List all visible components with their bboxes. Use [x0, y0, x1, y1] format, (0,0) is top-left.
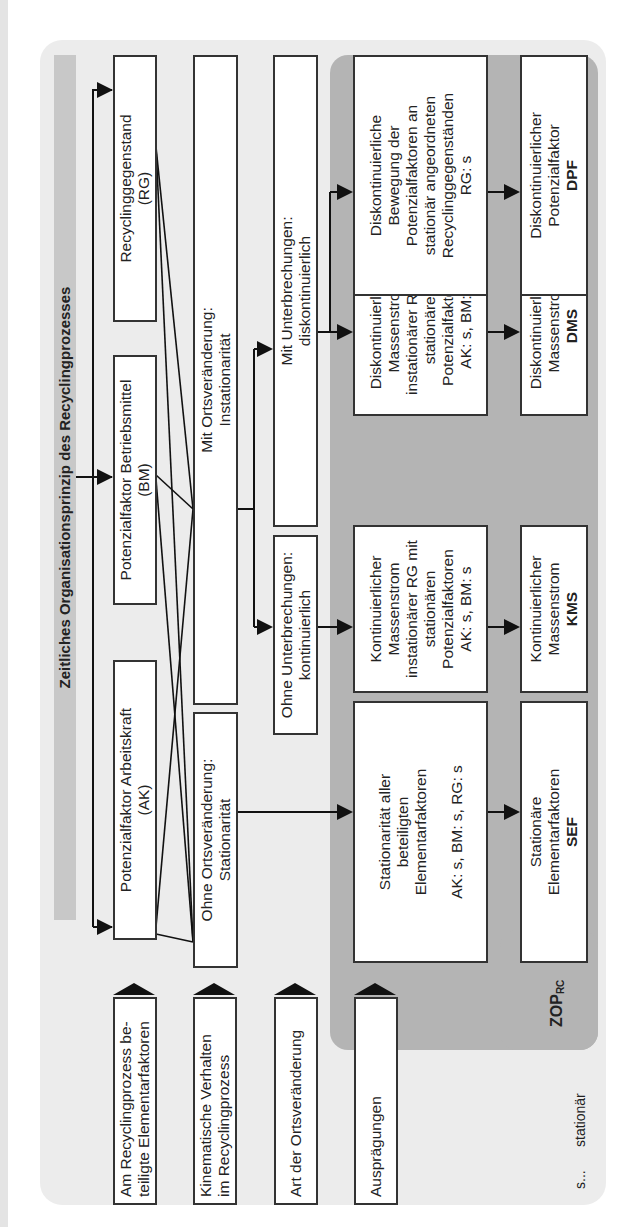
label-line: kontinuierlich [296, 552, 314, 718]
abbr-label: SEF [563, 769, 581, 896]
box-auspraegung-dpf: Diskontinuierliche Bewegung der Potenzia… [353, 55, 488, 296]
row-arrow-icon [354, 983, 396, 995]
label-line: instationärer RG mit [403, 540, 421, 678]
label-line: Ohne Ortsveränderung: [198, 759, 216, 922]
label-line: (BM) [135, 380, 153, 581]
label-line: Potenzialfaktoren [439, 540, 457, 678]
label-line: Instationarität [216, 307, 234, 453]
label-line: Ausprägungen [367, 1096, 385, 1197]
label-line: RG: s [457, 93, 475, 258]
abbr-label: DPF [563, 112, 581, 239]
row-arrow-icon [113, 983, 155, 995]
label-line: AK: s, BM: s, RG: s [448, 765, 466, 899]
label-line: teiligte Elementarfaktoren [135, 1021, 153, 1197]
row-label-elementarfaktoren: Am Recyclingprozess be-teiligte Elementa… [113, 997, 157, 1205]
abbr-label: KMS [563, 556, 581, 663]
label-line: Bewegung der [385, 93, 403, 258]
box-kontinuierlich: Ohne Unterbrechungen:kontinuierlich [273, 535, 318, 735]
label-line: Ohne Unterbrechungen: [278, 552, 296, 718]
legend-key: s... [572, 1170, 588, 1189]
label-line: Mit Unterbrechungen: [278, 216, 296, 365]
legend-value: stationär [572, 1093, 588, 1147]
label-line: Potenzialfaktor Arbeitskraft [117, 708, 135, 892]
box-stationaritaet: Ohne Ortsveränderung:Stationarität [193, 712, 238, 968]
spacer [430, 765, 448, 899]
label-line: Am Recyclingprozess be- [117, 1021, 135, 1197]
label-line: AK: s, BM: s [457, 540, 475, 678]
label-line: Diskontinuierlicher [527, 112, 545, 239]
label-line: Kontinuierlicher [527, 556, 545, 663]
box-betriebsmittel: Potenzialfaktor Betriebsmittel(BM) [113, 355, 157, 605]
label-line: Massenstrom [545, 556, 563, 663]
label-line: Diskontinuierliche [367, 93, 385, 258]
label-line: stationären [421, 540, 439, 678]
box-arbeitskraft: Potenzialfaktor Arbeitskraft(AK) [113, 660, 157, 940]
label-line: Potenzialfaktoren an [403, 93, 421, 258]
label-line: diskontinuierlich [296, 216, 314, 365]
box-zop-dpf: DiskontinuierlicherPotenzialfaktorDPF [520, 55, 588, 296]
label-line: Recyclinggegenständen [439, 93, 457, 258]
label-line: Art der Ortsveränderung [287, 1030, 305, 1197]
row-label-auspraegungen: Ausprägungen [354, 997, 398, 1205]
box-zop-kms: KontinuierlicherMassenstromKMS [520, 525, 588, 693]
legend: s... stationär [572, 1093, 588, 1189]
label-line: (RG) [135, 114, 153, 262]
diagram-stage: Zeitliches Organisationsprinzip des Recy… [0, 0, 628, 1227]
label-line: beteiligten [394, 765, 412, 899]
label-line: Mit Ortsveränderung: [198, 307, 216, 453]
label-line: Stationäre [527, 769, 545, 896]
label-line: Elementarfaktoren [545, 769, 563, 896]
label-line: Potenzialfaktor Betriebsmittel [117, 380, 135, 581]
box-auspraegung-kms: Kontinuierlicher Massenstrom instationär… [353, 525, 488, 693]
label-line: Stationarität aller [376, 765, 394, 899]
label-line: (AK) [135, 708, 153, 892]
row-label-ortsveraenderung: Art der Ortsveränderung [274, 997, 318, 1205]
label-line: Potenzialfaktor [545, 112, 563, 239]
label-line: Elementarfaktoren [412, 765, 430, 899]
label-line: stationär angeordneten [421, 93, 439, 258]
box-instationaritaet: Mit Ortsveränderung:Instationarität [193, 55, 238, 705]
box-auspraegung-sef: Stationarität aller beteiligten Elementa… [353, 701, 488, 963]
label-line: Kinematische Verhalten [197, 1034, 215, 1197]
label-line: Kontinuierlicher [367, 540, 385, 678]
row-arrow-icon [193, 983, 235, 995]
box-zop-sef: StationäreElementarfaktorenSEF [520, 701, 588, 963]
label-line: Recyclinggegenstand [117, 114, 135, 262]
box-diskontinuierlich: Mit Unterbrechungen:diskontinuierlich [273, 55, 318, 527]
box-recyclinggegenstand: Recyclinggegenstand(RG) [113, 55, 157, 322]
label-line: im Recyclingprozess [215, 1034, 233, 1197]
row-label-kinematik: Kinematische Verhaltenim Recyclingprozes… [193, 997, 237, 1205]
row-arrow-icon [274, 983, 316, 995]
label-line: Massenstrom [385, 540, 403, 678]
label-line: Stationarität [216, 759, 234, 922]
